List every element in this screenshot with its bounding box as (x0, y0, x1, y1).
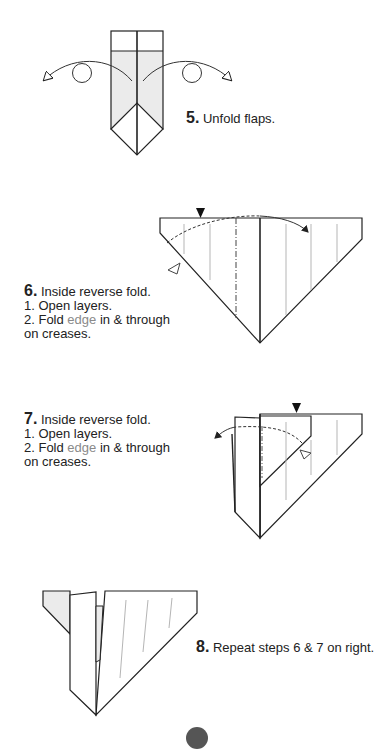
highlight-edge: edge (67, 440, 96, 455)
step-8-diagram (43, 591, 197, 715)
step-title: Inside reverse fold. (41, 284, 151, 299)
step-number: 7. (24, 410, 37, 427)
rotate-right-icon (183, 64, 202, 83)
step-7-caption: 7. Inside reverse fold. 1. Open layers. … (24, 412, 170, 469)
step-line: on creases. (24, 327, 170, 341)
step-number: 6. (24, 282, 37, 299)
step-title: Unfold flaps. (203, 111, 275, 126)
step-line: 1. Open layers. (24, 427, 170, 441)
step-6-caption: 6. Inside reverse fold. 1. Open layers. … (24, 284, 170, 341)
step-5-diagram (44, 31, 231, 155)
push-arrow-icon (168, 263, 180, 274)
fold-point-marker-icon (196, 208, 205, 218)
fold-point-marker-icon (292, 403, 301, 413)
step-line: on creases. (24, 455, 170, 469)
step-line: 1. Open layers. (24, 299, 170, 313)
step-5-caption: 5. Unfold flaps. (186, 111, 275, 126)
step-number: 8. (196, 638, 209, 655)
step-number: 5. (186, 109, 199, 126)
rotate-left-icon (73, 64, 92, 83)
highlight-edge: edge (67, 312, 96, 327)
step-line: 2. Fold edge in & through (24, 313, 170, 327)
step-title: Inside reverse fold. (41, 412, 151, 427)
step-line: 2. Fold edge in & through (24, 441, 170, 455)
step-7-diagram (215, 403, 362, 538)
step-6-diagram (160, 208, 362, 343)
step-title: Repeat steps 6 & 7 on right. (213, 640, 374, 655)
page-marker-circle (186, 727, 208, 749)
step-8-caption: 8. Repeat steps 6 & 7 on right. (196, 640, 374, 655)
